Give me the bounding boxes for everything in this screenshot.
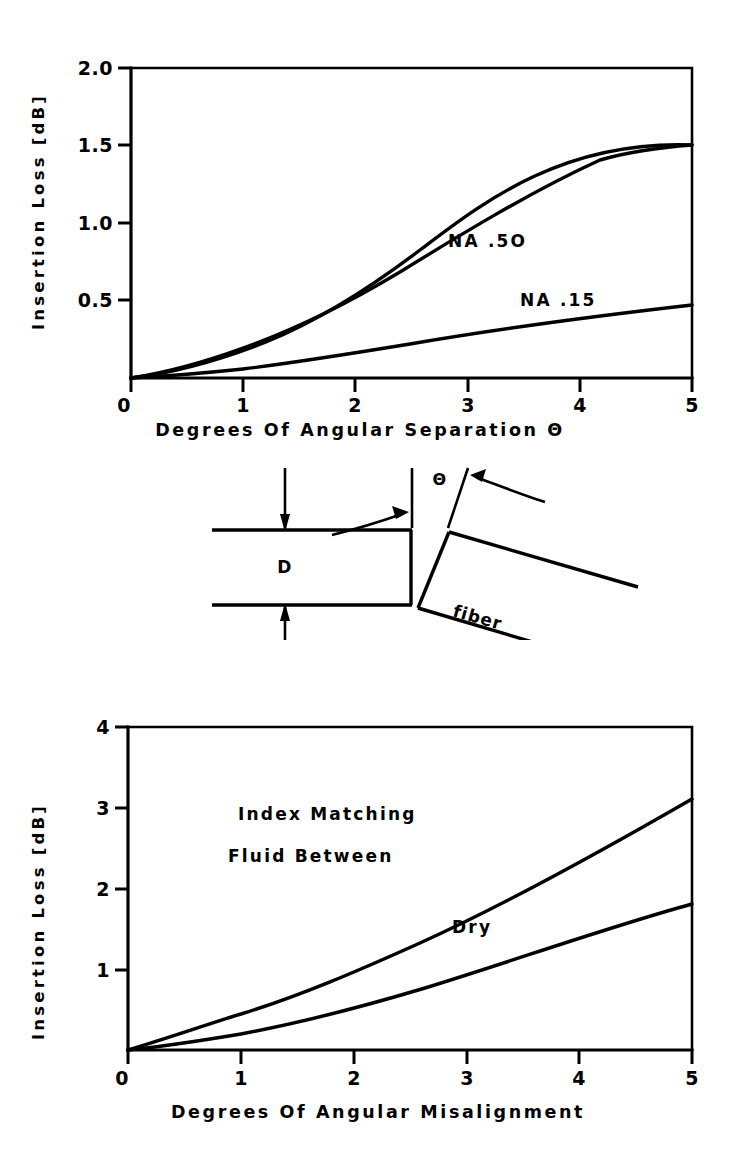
top-chart-x-label-3: 3: [461, 394, 475, 416]
top-chart-frame: [131, 68, 692, 378]
top-chart-x-label-5: 5: [685, 394, 699, 416]
bottom-chart-label-index-matching-line2: Fluid Between: [228, 846, 394, 866]
diagram-label-d: D: [277, 557, 293, 577]
bottom-chart-y-axis-title: Insertion Loss [dB]: [29, 803, 48, 1040]
bottom-chart-y-label-3: 3: [96, 797, 110, 819]
bottom-chart-x-label-4: 4: [572, 1067, 586, 1089]
fiber-axis-line: [448, 468, 468, 528]
bottom-chart-label-dry: Dry: [452, 917, 492, 937]
diagram-label-theta: Θ: [432, 470, 447, 489]
top-chart-x-axis-title: Degrees Of Angular Separation Θ: [155, 420, 565, 440]
figure-container: Insertion Loss [dB] 2.0 1.5 1.0 0.5 0 1 …: [0, 0, 732, 1165]
top-chart-y-label-1.5: 1.5: [78, 134, 113, 156]
top-chart-x-label-0: 0: [117, 394, 131, 416]
bottom-chart-x-label-0: 0: [115, 1067, 129, 1089]
bottom-chart-y-label-1: 1: [96, 959, 110, 981]
bottom-chart: Insertion Loss [dB] 4 3 2 1 0 1 2 3 4 5 …: [0, 640, 732, 1140]
bottom-chart-y-label-2: 2: [96, 878, 110, 900]
top-chart-y-label-2.0: 2.0: [78, 57, 113, 79]
bottom-chart-x-label-3: 3: [460, 1067, 474, 1089]
connector-diagram: D Θ fiber: [0, 440, 732, 640]
bottom-chart-x-label-5: 5: [685, 1067, 699, 1089]
top-chart-y-label-1.0: 1.0: [78, 212, 113, 234]
fiber-end-face: [418, 532, 449, 608]
top-chart-y-axis-title: Insertion Loss [dB]: [29, 93, 48, 330]
bottom-chart-curve-dry: [128, 904, 692, 1050]
bottom-chart-y-label-4: 4: [96, 716, 110, 738]
top-chart-y-label-0.5: 0.5: [78, 289, 113, 311]
theta-arrow-left: [332, 514, 402, 535]
fiber-top-edge: [449, 532, 638, 587]
top-chart-x-label-4: 4: [573, 394, 587, 416]
bottom-chart-x-label-2: 2: [347, 1067, 361, 1089]
diagram-label-fiber: fiber: [451, 601, 505, 634]
top-chart-label-na50: NA .5O: [448, 231, 527, 251]
top-chart-label-na15: NA .15: [520, 290, 597, 310]
top-chart-x-label-1: 1: [236, 394, 250, 416]
top-chart-x-label-2: 2: [348, 394, 362, 416]
bottom-chart-frame: [128, 727, 692, 1050]
top-chart: Insertion Loss [dB] 2.0 1.5 1.0 0.5 0 1 …: [0, 0, 732, 440]
bottom-chart-curve-index-matching: [128, 799, 692, 1050]
top-chart-curve-na15: [131, 305, 692, 378]
bottom-chart-label-index-matching-line1: Index Matching: [238, 804, 417, 824]
bottom-chart-x-axis-title: Degrees Of Angular Misalignment: [171, 1102, 585, 1122]
theta-arrow-right: [478, 478, 545, 502]
bottom-chart-x-label-1: 1: [234, 1067, 248, 1089]
fiber-bottom-edge: [418, 608, 610, 640]
